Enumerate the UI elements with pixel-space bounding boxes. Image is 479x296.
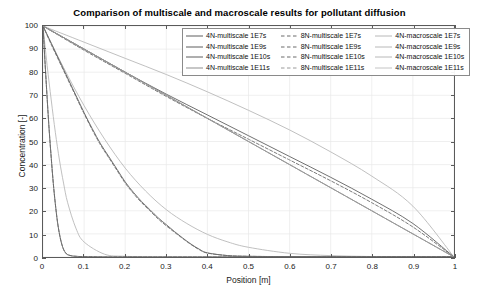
legend-entry[interactable]: 4N-macroscale 1E7s <box>373 32 468 40</box>
legend-line-swatch <box>375 64 392 72</box>
legend-label: 4N-macroscale 1E10s <box>395 53 464 61</box>
x-tick-label: 0.7 <box>311 262 351 271</box>
legend-entry[interactable]: 4N-multiscale 1E10s <box>184 53 279 61</box>
legend-line-swatch <box>186 32 203 40</box>
x-tick-mark-top <box>83 25 84 29</box>
legend-label: 4N-macroscale 1E11s <box>395 64 463 72</box>
legend-label: 8N-multiscale 1E9s <box>301 43 361 51</box>
y-tick-mark <box>42 118 46 119</box>
x-tick-label: 0 <box>22 262 62 271</box>
legend-label: 8N-multiscale 1E7s <box>301 32 361 40</box>
y-tick-mark <box>42 142 46 143</box>
legend-entry[interactable]: 4N-macroscale 1E9s <box>373 43 468 51</box>
legend-line-swatch <box>186 64 203 72</box>
y-tick-mark-right <box>451 258 455 259</box>
y-axis-label: Concentration [-] <box>17 86 27 206</box>
x-tick-mark <box>83 254 84 258</box>
y-tick-label: 80 <box>6 67 38 76</box>
legend-line-swatch <box>375 53 392 61</box>
x-tick-label: 0.1 <box>63 262 103 271</box>
legend-line-swatch <box>186 43 203 51</box>
y-tick-mark <box>42 235 46 236</box>
x-tick-label: 0.9 <box>394 262 434 271</box>
legend-entry[interactable]: 4N-macroscale 1E10s <box>373 53 468 61</box>
x-tick-mark <box>455 254 456 258</box>
x-tick-mark <box>42 254 43 258</box>
legend-label: 4N-multiscale 1E7s <box>206 32 266 40</box>
legend-line-swatch <box>281 43 298 51</box>
chart-figure: Comparison of multiscale and macroscale … <box>0 0 479 296</box>
x-tick-label: 0.3 <box>146 262 186 271</box>
legend-label: 4N-macroscale 1E9s <box>395 43 460 51</box>
legend-label: 4N-multiscale 1E10s <box>206 53 270 61</box>
x-tick-label: 0.4 <box>187 262 227 271</box>
x-tick-label: 0.2 <box>105 262 145 271</box>
y-tick-mark-right <box>451 211 455 212</box>
x-tick-label: 0.8 <box>352 262 392 271</box>
x-tick-label: 0.6 <box>270 262 310 271</box>
y-tick-mark-right <box>451 188 455 189</box>
legend-entry[interactable]: 4N-multiscale 1E7s <box>184 32 279 40</box>
legend-entry[interactable]: 8N-multiscale 1E7s <box>279 32 374 40</box>
x-tick-label: 0.5 <box>229 262 269 271</box>
y-tick-mark <box>42 95 46 96</box>
legend-entry[interactable]: 4N-multiscale 1E11s <box>184 64 279 72</box>
y-tick-mark <box>42 258 46 259</box>
legend-label: 8N-multiscale 1E11s <box>301 64 365 72</box>
y-tick-mark <box>42 211 46 212</box>
legend-entry[interactable]: 8N-multiscale 1E11s <box>279 64 374 72</box>
x-tick-mark <box>249 254 250 258</box>
legend-entry[interactable]: 8N-multiscale 1E10s <box>279 53 374 61</box>
x-tick-mark <box>414 254 415 258</box>
legend-line-swatch <box>281 64 298 72</box>
x-axis-label: Position [m] <box>42 275 455 285</box>
y-tick-label: 10 <box>6 230 38 239</box>
x-tick-mark-top <box>42 25 43 29</box>
x-tick-mark <box>166 254 167 258</box>
chart-legend: 4N-multiscale 1E7s8N-multiscale 1E7s4N-m… <box>182 28 470 76</box>
legend-label: 4N-macroscale 1E7s <box>395 32 460 40</box>
x-tick-mark-top <box>125 25 126 29</box>
y-tick-mark-right <box>451 165 455 166</box>
x-tick-mark <box>125 254 126 258</box>
y-tick-mark <box>42 165 46 166</box>
legend-entry[interactable]: 4N-multiscale 1E9s <box>184 43 279 51</box>
y-tick-label: 90 <box>6 44 38 53</box>
y-tick-mark <box>42 188 46 189</box>
legend-label: 4N-multiscale 1E11s <box>206 64 270 72</box>
y-tick-mark-right <box>451 118 455 119</box>
legend-entry[interactable]: 8N-multiscale 1E9s <box>279 43 374 51</box>
x-tick-mark <box>290 254 291 258</box>
y-tick-mark <box>42 72 46 73</box>
y-tick-mark-right <box>451 142 455 143</box>
x-tick-label: 1 <box>435 262 475 271</box>
x-tick-mark-top <box>166 25 167 29</box>
x-tick-mark <box>331 254 332 258</box>
x-tick-mark <box>372 254 373 258</box>
legend-row: 4N-multiscale 1E7s8N-multiscale 1E7s4N-m… <box>184 31 468 42</box>
legend-row: 4N-multiscale 1E9s8N-multiscale 1E9s4N-m… <box>184 42 468 53</box>
y-tick-label: 20 <box>6 207 38 216</box>
y-tick-mark-right <box>451 235 455 236</box>
legend-line-swatch <box>281 53 298 61</box>
legend-line-swatch <box>281 32 298 40</box>
legend-line-swatch <box>375 32 392 40</box>
x-tick-mark <box>207 254 208 258</box>
y-tick-mark-right <box>451 95 455 96</box>
legend-label: 8N-multiscale 1E10s <box>301 53 365 61</box>
legend-row: 4N-multiscale 1E10s8N-multiscale 1E10s4N… <box>184 52 468 63</box>
legend-line-swatch <box>375 43 392 51</box>
legend-line-swatch <box>186 53 203 61</box>
legend-row: 4N-multiscale 1E11s8N-multiscale 1E11s4N… <box>184 63 468 74</box>
y-tick-mark <box>42 48 46 49</box>
legend-label: 4N-multiscale 1E9s <box>206 43 266 51</box>
legend-entry[interactable]: 4N-macroscale 1E11s <box>373 64 468 72</box>
y-tick-label: 100 <box>6 21 38 30</box>
